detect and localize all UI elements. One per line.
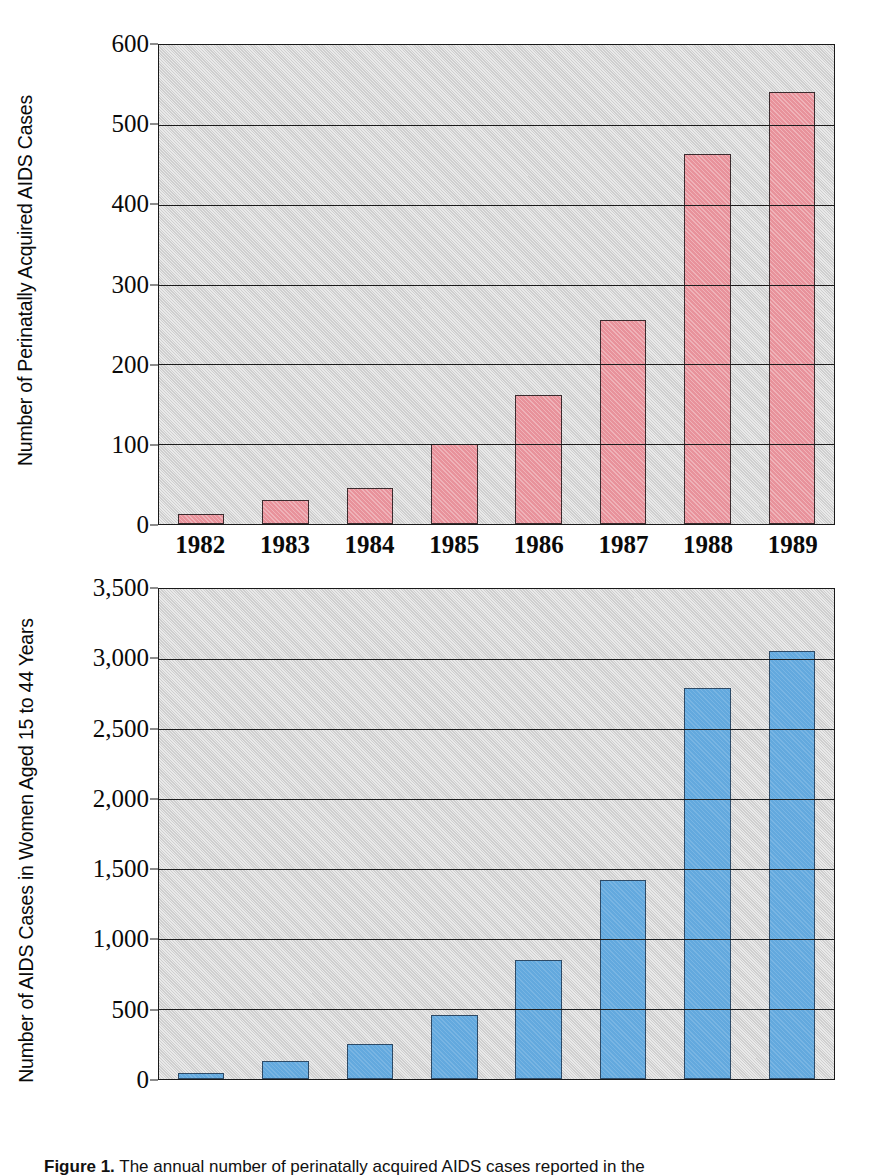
gridline bbox=[159, 205, 834, 206]
y-tick-label: 300 bbox=[112, 271, 150, 299]
y-tick-mark bbox=[150, 939, 158, 940]
bar-1988[interactable] bbox=[684, 154, 730, 524]
y-tick-mark bbox=[150, 1009, 158, 1010]
y-axis-title-perinatal-text: Number of Perinatally Acquired AIDS Case… bbox=[15, 94, 38, 465]
x-tick-label-1987: 1987 bbox=[581, 531, 666, 559]
y-tick-label: 3,000 bbox=[93, 644, 149, 672]
y-tick-mark bbox=[150, 588, 158, 589]
y-tick-mark bbox=[150, 869, 158, 870]
bar-1986[interactable] bbox=[515, 960, 561, 1079]
figure-caption: Figure 1. The annual number of perinatal… bbox=[44, 1156, 844, 1176]
bar-1984[interactable] bbox=[347, 1044, 393, 1079]
y-tick-mark bbox=[150, 658, 158, 659]
figure-caption-text: The annual number of perinatally acquire… bbox=[119, 1157, 644, 1176]
bar-slot bbox=[497, 589, 581, 1079]
bar-1987[interactable] bbox=[600, 880, 646, 1079]
x-axis-labels-perinatal: 19821983198419851986198719881989 bbox=[158, 531, 835, 559]
gridline bbox=[159, 869, 834, 870]
x-tick-label-1989: 1989 bbox=[750, 531, 835, 559]
y-tick-label: 1,000 bbox=[93, 925, 149, 953]
y-tick-label: 200 bbox=[112, 351, 150, 379]
gridline bbox=[159, 444, 834, 445]
figure-page: Number of Perinatally Acquired AIDS Case… bbox=[0, 0, 873, 1176]
bar-slot bbox=[665, 589, 749, 1079]
y-tick-label: 0 bbox=[137, 511, 150, 539]
y-tick-label: 600 bbox=[112, 30, 150, 58]
x-tick-label-1986: 1986 bbox=[497, 531, 582, 559]
y-tick-label: 2,500 bbox=[93, 715, 149, 743]
bar-slot bbox=[243, 589, 327, 1079]
bar-1989[interactable] bbox=[769, 651, 815, 1079]
chart-perinatal-aids-cases: Number of Perinatally Acquired AIDS Case… bbox=[0, 0, 873, 560]
bar-1982[interactable] bbox=[178, 1073, 224, 1079]
bars-layer-women bbox=[159, 589, 834, 1079]
bar-1984[interactable] bbox=[347, 488, 393, 524]
gridline bbox=[159, 729, 834, 730]
plot-wrap-perinatal: 0100200300400500600 bbox=[158, 44, 835, 525]
bar-slot bbox=[581, 589, 665, 1079]
x-tick-label-1984: 1984 bbox=[327, 531, 412, 559]
y-tick-mark bbox=[150, 798, 158, 799]
y-tick-mark bbox=[150, 364, 158, 365]
y-tick-mark bbox=[150, 124, 158, 125]
x-tick-label-1983: 1983 bbox=[243, 531, 328, 559]
bar-1987[interactable] bbox=[600, 320, 646, 524]
gridline bbox=[159, 364, 834, 365]
plot-area-women bbox=[158, 588, 835, 1080]
y-tick-mark bbox=[150, 204, 158, 205]
y-tick-label: 500 bbox=[112, 110, 150, 138]
bar-1982[interactable] bbox=[178, 514, 224, 524]
gridline bbox=[159, 799, 834, 800]
y-axis-title-perinatal: Number of Perinatally Acquired AIDS Case… bbox=[0, 0, 52, 560]
y-tick-label: 3,500 bbox=[93, 574, 149, 602]
y-tick-label: 2,000 bbox=[93, 785, 149, 813]
gridline bbox=[159, 125, 834, 126]
plot-area-perinatal bbox=[158, 44, 835, 525]
y-tick-label: 400 bbox=[112, 190, 150, 218]
bar-slot bbox=[159, 589, 243, 1079]
y-tick-mark bbox=[150, 525, 158, 526]
y-tick-label: 0 bbox=[137, 1066, 150, 1094]
gridline bbox=[159, 1009, 834, 1010]
y-axis-title-women: Number of AIDS Cases in Women Aged 15 to… bbox=[0, 560, 52, 1140]
x-tick-label-1985: 1985 bbox=[412, 531, 497, 559]
bar-1988[interactable] bbox=[684, 688, 730, 1079]
x-tick-label-1982: 1982 bbox=[158, 531, 243, 559]
y-tick-mark bbox=[150, 728, 158, 729]
figure-caption-label: Figure 1. bbox=[44, 1157, 115, 1176]
bar-slot bbox=[750, 589, 834, 1079]
plot-wrap-women: 05001,0001,5002,0002,5003,0003,500 bbox=[158, 588, 835, 1080]
bar-1989[interactable] bbox=[769, 92, 815, 524]
chart-women-aids-cases: Number of AIDS Cases in Women Aged 15 to… bbox=[0, 560, 873, 1140]
bar-1983[interactable] bbox=[262, 1061, 308, 1079]
x-tick-label-1988: 1988 bbox=[666, 531, 751, 559]
y-tick-mark bbox=[150, 44, 158, 45]
bar-slot bbox=[328, 589, 412, 1079]
y-tick-mark bbox=[150, 284, 158, 285]
y-axis-title-women-text: Number of AIDS Cases in Women Aged 15 to… bbox=[15, 618, 38, 1083]
bar-1985[interactable] bbox=[431, 1015, 477, 1079]
y-tick-mark bbox=[150, 444, 158, 445]
y-tick-label: 100 bbox=[112, 431, 150, 459]
bar-1986[interactable] bbox=[515, 395, 561, 524]
bar-1983[interactable] bbox=[262, 500, 308, 524]
gridline bbox=[159, 659, 834, 660]
gridline bbox=[159, 285, 834, 286]
y-tick-label: 500 bbox=[112, 996, 150, 1024]
bar-slot bbox=[412, 589, 496, 1079]
gridline bbox=[159, 939, 834, 940]
y-tick-label: 1,500 bbox=[93, 855, 149, 883]
y-tick-mark bbox=[150, 1080, 158, 1081]
bar-1985[interactable] bbox=[431, 444, 477, 524]
